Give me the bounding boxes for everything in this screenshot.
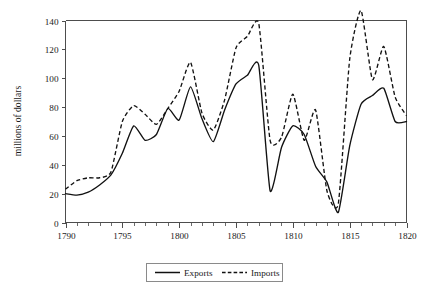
x-tick-label-1795: 1795 xyxy=(113,231,132,241)
x-tick-label-1820: 1820 xyxy=(398,231,417,241)
exports-imports-line-chart: millions of dollars 020406080100120140 1… xyxy=(0,0,427,291)
x-tick-label-1815: 1815 xyxy=(341,231,360,241)
x-tick-label-1805: 1805 xyxy=(227,231,246,241)
x-tick-label-1800: 1800 xyxy=(170,231,189,241)
data-series-group xyxy=(66,10,407,212)
legend-label-exports: Exports xyxy=(184,268,213,278)
y-tick-label-100: 100 xyxy=(45,74,59,84)
chart-legend: Exports Imports xyxy=(147,264,283,282)
series-line-imports xyxy=(66,10,407,208)
x-tick-label-1790: 1790 xyxy=(57,231,76,241)
y-axis-ticks: 020406080100120140 xyxy=(45,17,66,229)
x-tick-label-1810: 1810 xyxy=(284,231,303,241)
y-tick-label-0: 0 xyxy=(54,219,59,229)
y-tick-label-20: 20 xyxy=(49,190,59,200)
y-tick-label-140: 140 xyxy=(45,17,59,27)
y-tick-label-120: 120 xyxy=(45,45,59,55)
series-line-exports xyxy=(66,62,407,213)
y-axis-title: millions of dollars xyxy=(12,86,23,157)
y-tick-label-60: 60 xyxy=(49,132,59,142)
y-tick-label-80: 80 xyxy=(49,103,59,113)
y-axis-title-group: millions of dollars xyxy=(12,86,23,157)
y-tick-label-40: 40 xyxy=(49,161,59,171)
chart-figure: millions of dollars 020406080100120140 1… xyxy=(0,0,427,291)
legend-label-imports: Imports xyxy=(251,268,280,278)
